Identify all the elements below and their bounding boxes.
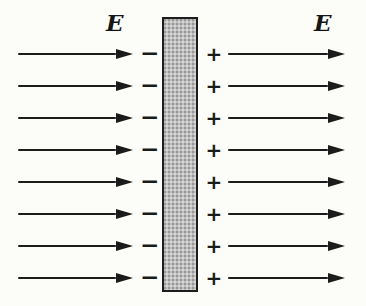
left-field-arrow (18, 112, 133, 124)
arrowhead-icon (116, 49, 133, 59)
arrowhead-icon (116, 81, 133, 91)
positive-charge-sign: + (205, 44, 223, 64)
field-line-row: − + (0, 170, 366, 194)
arrowhead-icon (328, 113, 345, 123)
right-field-arrow (228, 112, 345, 124)
left-field-arrow (18, 80, 133, 92)
field-line-row: − + (0, 42, 366, 66)
field-line-row: − + (0, 266, 366, 290)
arrow-shaft (18, 245, 116, 248)
left-field-label: E (106, 11, 124, 34)
positive-charge-sign: + (205, 172, 223, 192)
arrowhead-icon (328, 81, 345, 91)
positive-charge-sign: + (205, 76, 223, 96)
arrow-shaft (18, 277, 116, 280)
negative-charge-sign: − (140, 138, 156, 161)
arrowhead-icon (116, 241, 133, 251)
arrowhead-icon (328, 145, 345, 155)
negative-charge-sign: − (140, 106, 156, 129)
right-field-arrow (228, 144, 345, 156)
field-rows: − + − + − + (0, 42, 366, 290)
arrow-shaft (228, 85, 328, 88)
arrow-shaft (228, 149, 328, 152)
positive-charge-sign: + (205, 268, 223, 288)
positive-charge-sign: + (205, 108, 223, 128)
arrow-shaft (228, 245, 328, 248)
arrow-shaft (18, 149, 116, 152)
arrow-shaft (228, 53, 328, 56)
negative-charge-sign: − (140, 170, 156, 193)
arrowhead-icon (328, 241, 345, 251)
arrowhead-icon (116, 113, 133, 123)
field-line-row: − + (0, 234, 366, 258)
arrow-shaft (18, 117, 116, 120)
field-line-row: − + (0, 74, 366, 98)
arrow-shaft (228, 117, 328, 120)
right-field-arrow (228, 272, 345, 284)
right-field-arrow (228, 240, 345, 252)
left-field-arrow (18, 208, 133, 220)
negative-charge-sign: − (140, 266, 156, 289)
arrow-shaft (18, 53, 116, 56)
arrowhead-icon (328, 273, 345, 283)
right-field-label: E (314, 11, 332, 34)
arrow-shaft (18, 181, 116, 184)
arrow-shaft (228, 181, 328, 184)
positive-charge-sign: + (205, 236, 223, 256)
negative-charge-sign: − (140, 42, 156, 65)
left-field-arrow (18, 272, 133, 284)
arrowhead-icon (328, 49, 345, 59)
positive-charge-sign: + (205, 140, 223, 160)
negative-charge-sign: − (140, 202, 156, 225)
right-field-arrow (228, 176, 345, 188)
left-field-arrow (18, 240, 133, 252)
arrowhead-icon (116, 145, 133, 155)
arrowhead-icon (328, 177, 345, 187)
field-line-row: − + (0, 138, 366, 162)
field-line-row: − + (0, 106, 366, 130)
arrowhead-icon (328, 209, 345, 219)
arrowhead-icon (116, 177, 133, 187)
left-field-arrow (18, 176, 133, 188)
negative-charge-sign: − (140, 74, 156, 97)
arrow-shaft (228, 277, 328, 280)
arrowhead-icon (116, 209, 133, 219)
left-field-arrow (18, 48, 133, 60)
field-line-row: − + (0, 202, 366, 226)
arrow-shaft (228, 213, 328, 216)
arrow-shaft (18, 85, 116, 88)
arrow-shaft (18, 213, 116, 216)
negative-charge-sign: − (140, 234, 156, 257)
right-field-arrow (228, 208, 345, 220)
right-field-arrow (228, 80, 345, 92)
right-field-arrow (228, 48, 345, 60)
field-diagram: E E − + − + (0, 0, 366, 306)
left-field-arrow (18, 144, 133, 156)
positive-charge-sign: + (205, 204, 223, 224)
arrowhead-icon (116, 273, 133, 283)
